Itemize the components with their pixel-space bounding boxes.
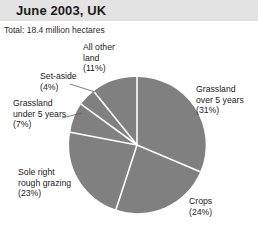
pie-label-sole-right-rough-grazing-line3: (23%) [18,188,71,199]
pie-label-sole-right-rough-grazing-line1: Sole right [18,167,71,178]
pie-label-all-other-land: All other land (11%) [83,42,115,74]
pie-label-crops: Crops (24%) [189,196,212,217]
pie-label-grassland-under-5-years: Grassland under 5 years (7%) [13,98,66,130]
pie-label-crops-line2: (24%) [189,207,212,218]
pie-chart-figure: June 2003, UK Total: 18.4 million hectar… [0,0,258,236]
pie-label-grassland-over-5-years: Grassland over 5 years (31%) [196,84,244,116]
pie-label-grassland-under-5-years-line2: under 5 years [13,109,66,120]
pie-label-grassland-over-5-years-line1: Grassland [196,84,244,95]
pie-label-sole-right-rough-grazing: Sole right rough grazing (23%) [18,167,71,199]
pie-label-grassland-under-5-years-line3: (7%) [13,119,66,130]
pie-label-sole-right-rough-grazing-line2: rough grazing [18,178,71,189]
pie-label-all-other-land-line3: (11%) [83,63,115,74]
pie-label-grassland-under-5-years-line1: Grassland [13,98,66,109]
pie-label-set-aside-line1: Set-aside [40,71,77,82]
pie-label-all-other-land-line1: All other [83,42,115,53]
pie-label-set-aside: Set-aside (4%) [40,71,77,92]
pie-label-crops-line1: Crops [189,196,212,207]
pie-label-grassland-over-5-years-line3: (31%) [196,105,244,116]
pie-label-grassland-over-5-years-line2: over 5 years [196,95,244,106]
pie-label-all-other-land-line2: land [83,53,115,64]
pie-label-set-aside-line2: (4%) [40,82,77,93]
